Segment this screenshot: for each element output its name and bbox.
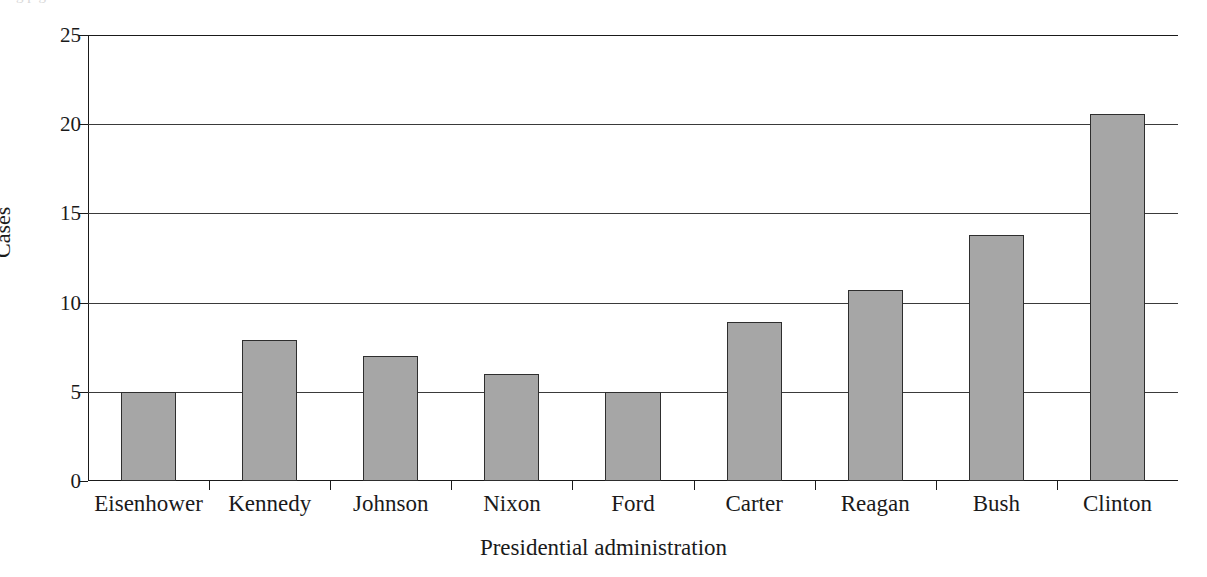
y-tick-label: 0: [71, 471, 82, 492]
x-tick-mark: [694, 481, 695, 490]
bar-kennedy: [242, 340, 297, 481]
x-tick-mark: [451, 481, 452, 490]
y-tick-label: 10: [60, 292, 81, 313]
x-tick-mark: [815, 481, 816, 490]
bar-johnson: [363, 356, 418, 481]
x-tick-mark: [330, 481, 331, 490]
x-tick-label: Reagan: [841, 492, 910, 515]
gridline: [88, 213, 1178, 214]
bar-eisenhower: [121, 392, 176, 481]
x-tick-label: Bush: [973, 492, 1020, 515]
x-tick-label: Clinton: [1083, 492, 1152, 515]
bar-nixon: [484, 374, 539, 481]
plot-area: 0510152025: [88, 35, 1178, 481]
x-tick-label: Kennedy: [228, 492, 311, 515]
plot-top-border: [88, 35, 1178, 36]
y-axis-line: [88, 35, 89, 481]
x-tick-mark: [936, 481, 937, 490]
y-tick-label: 15: [60, 203, 81, 224]
bar-ford: [605, 392, 660, 481]
bar-carter: [727, 322, 782, 481]
x-tick-label: Eisenhower: [94, 492, 203, 515]
clipped-caption-remnant: g p g: [0, 0, 1207, 3]
x-tick-mark: [1057, 481, 1058, 490]
x-axis-title: Presidential administration: [0, 536, 1207, 559]
gridline: [88, 124, 1178, 125]
x-tick-label: Johnson: [353, 492, 428, 515]
y-tick-label: 25: [60, 25, 81, 46]
figure-container: g p g Cases 0510152025 EisenhowerKennedy…: [0, 0, 1207, 577]
y-tick-label: 5: [71, 381, 82, 402]
x-tick-label: Carter: [725, 492, 782, 515]
x-tick-mark: [209, 481, 210, 490]
x-tick-label: Ford: [611, 492, 654, 515]
y-tick-label: 20: [60, 114, 81, 135]
bar-reagan: [848, 290, 903, 481]
y-axis-title: Cases: [0, 207, 14, 258]
bar-bush: [969, 235, 1024, 481]
x-tick-label: Nixon: [483, 492, 541, 515]
x-tick-mark: [572, 481, 573, 490]
bar-clinton: [1090, 114, 1145, 482]
